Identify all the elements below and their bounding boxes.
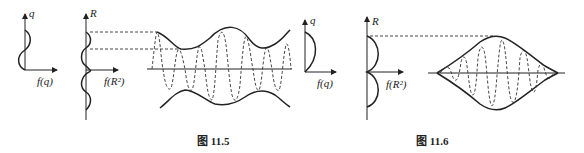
fig115-r-plot: R f(R²) (82, 7, 125, 120)
upper-envelope (437, 36, 558, 73)
fig116-wave-packet (428, 36, 565, 110)
fig116-r-plot: R f(R²) (367, 15, 407, 120)
fig115-q-plot-right: q f(q) (305, 14, 336, 90)
y-axis-label: R (371, 15, 379, 27)
x-axis-label: f(R²) (104, 75, 125, 88)
caption-fig-11-5: 图 11.5 (197, 135, 230, 147)
x-axis-label: f(R²) (386, 78, 407, 91)
y-axis-label: q (310, 14, 316, 26)
y-axis-label: R (89, 7, 97, 19)
lower-envelope (160, 90, 290, 108)
caption-fig-11-6: 图 11.6 (416, 135, 449, 147)
x-axis-label: f(q) (37, 75, 53, 88)
distribution-curve (305, 32, 316, 72)
x-axis-label: f(q) (317, 77, 333, 90)
fig115-wave-diagram (147, 27, 292, 108)
oscillation-wave (152, 32, 291, 100)
figure-canvas: q f(q) R f(R²) q f(q) 图 11.5 R f(R²) (0, 0, 584, 153)
fig115-q-plot: q f(q) (19, 7, 57, 88)
y-axis-label: q (29, 7, 35, 19)
upper-envelope (157, 27, 290, 49)
distribution-curve (19, 30, 31, 70)
lower-envelope (437, 73, 558, 110)
